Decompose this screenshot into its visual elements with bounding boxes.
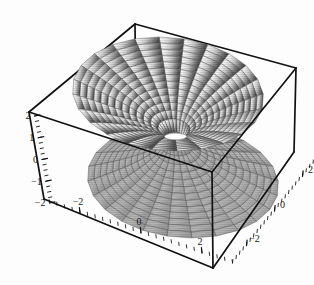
axis-tick-label: −2 [249,233,260,244]
axis-tick-label: −2 [73,196,84,207]
axis-tick-label: 2 [26,110,31,121]
plot-canvas: 210−1−2−20220−2 [0,0,314,285]
axis-tick-label: 2 [308,164,313,175]
axis-tick-label: −1 [31,176,42,187]
upper-surface-sheet [73,37,263,151]
axis-tick-label: 2 [198,236,203,247]
surface-plot-figure: 210−1−2−20220−2 [0,0,314,285]
axis-tick-label: 0 [137,216,142,227]
axis-tick-label: 0 [280,199,285,210]
axis-tick-label: 1 [29,132,34,143]
axis-tick-label: −2 [35,197,46,208]
axis-tick-label: 0 [33,154,38,165]
